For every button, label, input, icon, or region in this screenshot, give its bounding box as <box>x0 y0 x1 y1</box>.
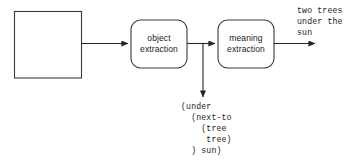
input-image-box <box>15 12 82 79</box>
meaning-extraction-label: meaning extraction <box>218 33 274 54</box>
output-sentence-text: two trees under the sun <box>297 5 343 38</box>
pipeline-diagram: object extraction meaning extraction two… <box>0 0 358 163</box>
object-extraction-label: object extraction <box>131 33 187 54</box>
semantic-form-text: (under (next-to (tree tree) ) sun) <box>181 101 232 156</box>
